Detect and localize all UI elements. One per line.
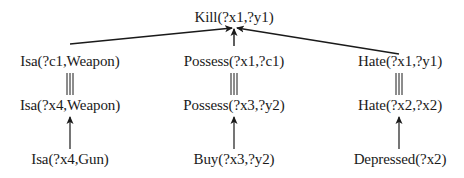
arrow-weapon-to-kill <box>70 28 232 44</box>
arrow-hate-to-kill <box>237 28 399 54</box>
unify-weapon <box>67 73 73 95</box>
node-isa-x4-gun: Isa(?x4,Gun) <box>31 151 109 167</box>
node-possess-x1-c1: Possess(?x1,?c1) <box>184 53 284 69</box>
node-root-kill: Kill(?x1,?y1) <box>194 9 273 25</box>
unify-possess <box>231 73 237 95</box>
unify-hate <box>396 73 402 95</box>
node-hate-x2-x2: Hate(?x2,?x2) <box>358 97 442 113</box>
node-depressed-x2: Depressed(?x2) <box>354 151 447 167</box>
node-hate-x1-y1: Hate(?x1,?y1) <box>358 53 442 69</box>
node-possess-x3-y2: Possess(?x3,?y2) <box>183 97 284 113</box>
node-isa-x4-weapon: Isa(?x4,Weapon) <box>20 97 120 113</box>
node-isa-c1-weapon: Isa(?c1,Weapon) <box>20 53 119 69</box>
node-buy-x3-y2: Buy(?x3,?y2) <box>194 151 275 167</box>
